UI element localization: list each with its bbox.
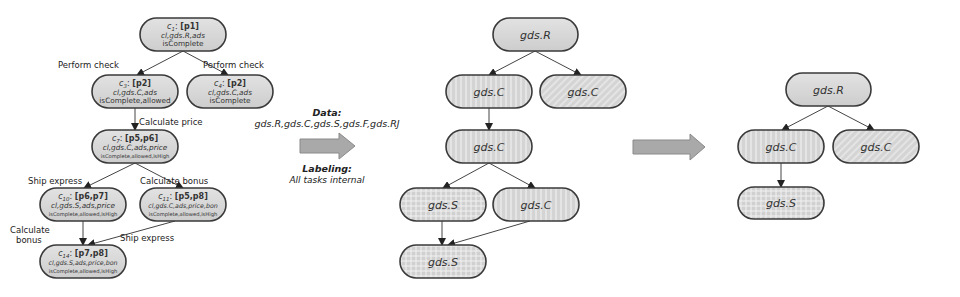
abstract-node-m3: gds.C [540, 75, 626, 108]
abstract-node-r3: gds.C [833, 130, 919, 163]
diagram-canvas: c1: [p1]cl,gds.R,adsisCompletec3: [p2]cl… [0, 0, 960, 297]
node-label: gds.C [474, 86, 505, 99]
edge-label: Calculate [10, 225, 50, 235]
data-title: Data: [312, 107, 341, 118]
edge-label: Calculate bonus [140, 176, 209, 186]
state-node-c11: c11: [p5,p8]cl,gds.C,ads,price,bonisComp… [140, 188, 226, 221]
right-arrow-icon [633, 134, 705, 160]
node-label: gds.C [766, 141, 797, 154]
node-label: gds.R [813, 84, 844, 97]
edge-m1-m3 [535, 51, 581, 75]
edge-label: Perform check [203, 60, 264, 70]
node-data-line: cl,gds.S,ads,price [51, 201, 116, 210]
edge-r1-r2 [782, 106, 828, 130]
node-label: gds.C [474, 141, 505, 154]
abstract-node-m6: gds.C [493, 188, 579, 221]
node-label: gds.S [766, 197, 796, 210]
labeling-value: All tasks internal [288, 175, 365, 185]
node-label: gds.C [568, 86, 599, 99]
node-label: gds.S [428, 199, 458, 212]
node-label: gds.S [428, 256, 458, 269]
transform-arrow-2 [633, 134, 705, 160]
edge-m4-m5 [443, 163, 489, 188]
right-graph-nodes: gds.Rgds.Cgds.Cgds.S [738, 73, 919, 219]
transform-arrow-1 [300, 133, 355, 159]
labeling-title: Labeling: [302, 163, 352, 174]
abstract-node-r1: gds.R [786, 73, 871, 106]
right-arrow-icon [300, 133, 355, 159]
node-label: gds.R [520, 29, 551, 42]
state-node-c14: c14: [p7,p8]cl,gds.S,ads,price,bonisComp… [40, 245, 126, 278]
node-attributes-line: isComplete [210, 96, 252, 105]
node-attributes-line: isComplete,allowed,isHigh [49, 211, 117, 218]
data-value: gds.R,gds.C,gds.S,gds.F,gds.RJ [254, 118, 399, 129]
state-node-c10: c10: [p6,p7]cl,gds.S,ads,priceisComplete… [40, 188, 126, 221]
node-attributes-line: isComplete,allowed,isHigh [101, 153, 169, 160]
node-attributes-line: isComplete,allowed [99, 96, 170, 105]
node-label: gds.C [521, 199, 552, 212]
edge-label: Ship express [28, 176, 83, 186]
node-label: gds.C [861, 141, 892, 154]
edge-c7-c10 [84, 163, 135, 188]
abstract-node-r4: gds.S [738, 187, 824, 219]
node-attributes-line: isComplete [163, 39, 205, 48]
edge-m4-m6 [489, 163, 535, 188]
abstract-node-m7: gds.S [400, 245, 486, 278]
state-node-c7: c7: [p5,p6]cl,gds.C,ads,priceisComplete,… [92, 130, 178, 163]
state-node-c1: c1: [p1]cl,gds.R,adsisComplete [140, 18, 226, 51]
abstract-node-m2: gds.C [446, 75, 532, 108]
abstract-node-r2: gds.C [738, 130, 824, 163]
abstract-node-m4: gds.C [446, 130, 532, 163]
edge-m1-m2 [489, 51, 535, 75]
abstract-node-m1: gds.R [493, 18, 578, 51]
edge-label: Ship express [120, 233, 175, 243]
edge-label: Perform check [58, 60, 119, 70]
edge-c1-c3 [137, 51, 183, 75]
state-node-c3: c3: [p2]cl,gds.C,adsisComplete,allowed [92, 75, 178, 108]
state-node-c4: c4: [p2]cl,gds.C,adsisComplete [187, 75, 273, 108]
node-attributes-line: isComplete,allowed,isHigh [49, 268, 117, 275]
edge-label: bonus [16, 235, 42, 245]
abstract-node-m5: gds.S [400, 188, 486, 221]
middle-graph-nodes: gds.Rgds.Cgds.Cgds.Cgds.Sgds.Cgds.S [400, 18, 626, 278]
node-attributes-line: isComplete,allowed,isHigh [149, 211, 217, 218]
edge-r1-r3 [828, 106, 874, 130]
edge-label: Calculate price [139, 117, 203, 127]
edge-m6-m7 [448, 221, 530, 245]
node-data-line: cl,gds.S,ads,price,bon [48, 259, 117, 267]
node-data-line: cl,gds.C,ads,price [103, 143, 168, 152]
node-data-line: cl,gds.C,ads,price,bon [148, 202, 218, 210]
